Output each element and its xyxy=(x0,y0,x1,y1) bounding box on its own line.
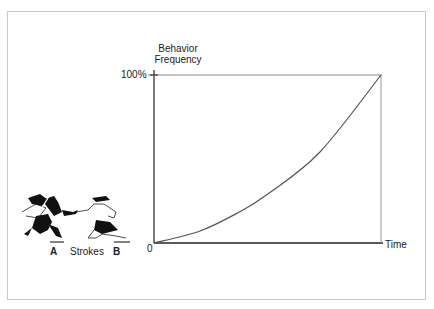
behavior-curve xyxy=(154,75,381,243)
y-axis-label: Behavior Frequency xyxy=(148,43,208,65)
figure-a-icon xyxy=(22,194,78,242)
y-tick-label-100: 100% xyxy=(121,69,147,80)
figure-b-label: B xyxy=(113,246,120,257)
stroking-figures-illustration xyxy=(18,190,143,245)
figure-a-label: A xyxy=(50,246,57,257)
figure-b-icon xyxy=(76,196,130,242)
y-axis-label-line2: Frequency xyxy=(148,54,208,65)
strokes-label: Strokes xyxy=(70,246,104,257)
chart-plot xyxy=(0,0,434,309)
origin-tick-label: 0 xyxy=(147,243,153,254)
x-axis-label: Time xyxy=(385,239,407,250)
y-axis-label-line1: Behavior xyxy=(148,43,208,54)
